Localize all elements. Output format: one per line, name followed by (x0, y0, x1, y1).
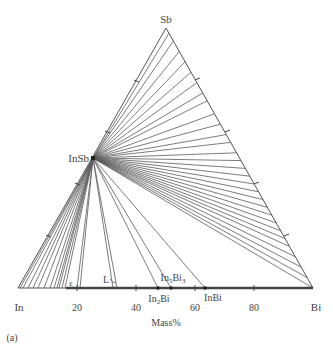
vertex-label-in: In (14, 301, 24, 313)
in2bi-point (156, 286, 160, 290)
triangle-outline (18, 28, 313, 288)
compound-label-in5bi3: In5Bi3 (161, 272, 186, 285)
ternary-diagram: Sb In Bi InSb ε L In5Bi3 In2Bi InBi 20 4… (0, 0, 333, 346)
compound-label-insb: InSb (68, 152, 89, 164)
in5bi3-point (169, 286, 173, 290)
panel-label: (a) (6, 332, 17, 344)
tick-label-40: 40 (131, 302, 141, 313)
insb-point (91, 156, 95, 160)
phase-label-liquid: L (103, 274, 109, 285)
tie-lines (20, 33, 313, 288)
vertex-label-bi: Bi (311, 301, 321, 313)
axis-label-mass: Mass% (151, 317, 180, 328)
tick-label-20: 20 (72, 302, 82, 313)
tick-label-60: 60 (190, 302, 200, 313)
compound-label-inbi: InBi (204, 292, 222, 303)
vertex-label-sb: Sb (160, 13, 172, 25)
compound-label-in2bi: In2Bi (148, 293, 170, 306)
inbi-point (203, 286, 207, 290)
phase-label-epsilon: ε (69, 279, 73, 288)
tick-label-80: 80 (249, 302, 259, 313)
